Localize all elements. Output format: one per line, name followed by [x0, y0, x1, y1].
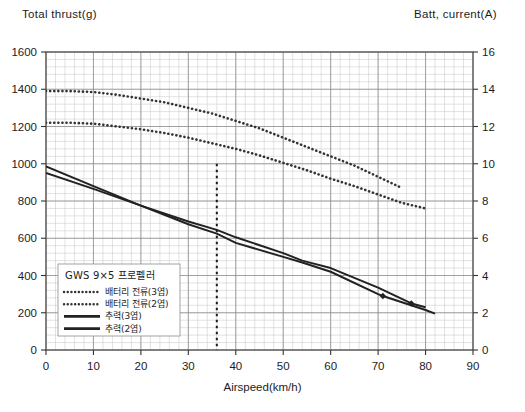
svg-text:90: 90 [467, 360, 480, 372]
svg-text:30: 30 [182, 360, 195, 372]
svg-text:6: 6 [482, 232, 488, 244]
chart-figure: Total thrust(g) Batt, current(A) Airspee… [0, 0, 525, 412]
svg-text:400: 400 [18, 270, 37, 282]
svg-text:800: 800 [18, 195, 37, 207]
svg-text:14: 14 [482, 83, 495, 95]
svg-text:40: 40 [229, 360, 242, 372]
svg-text:1000: 1000 [11, 158, 37, 170]
svg-text:배터리 전류(2엽): 배터리 전류(2엽) [105, 299, 169, 309]
svg-text:0: 0 [43, 360, 49, 372]
svg-text:80: 80 [419, 360, 432, 372]
svg-text:20: 20 [134, 360, 147, 372]
svg-text:200: 200 [18, 307, 37, 319]
svg-text:1400: 1400 [11, 83, 37, 95]
svg-text:70: 70 [372, 360, 385, 372]
svg-text:추력(3엽): 추력(3엽) [105, 310, 142, 321]
svg-text:10: 10 [87, 360, 100, 372]
svg-text:1600: 1600 [11, 46, 37, 58]
svg-text:4: 4 [482, 270, 489, 282]
svg-text:60: 60 [324, 360, 337, 372]
chart-canvas: 0200400600800100012001400160002468101214… [0, 0, 525, 412]
svg-text:600: 600 [18, 232, 37, 244]
svg-text:0: 0 [482, 344, 488, 356]
svg-text:1200: 1200 [11, 121, 37, 133]
svg-text:12: 12 [482, 121, 495, 133]
svg-text:2: 2 [482, 307, 488, 319]
svg-text:0: 0 [31, 344, 37, 356]
svg-text:추력(2엽): 추력(2엽) [105, 323, 142, 334]
chart-legend: GWS 9×5 프로펠러배터리 전류(3엽)배터리 전류(2엽)추력(3엽)추력… [58, 264, 180, 336]
svg-text:10: 10 [482, 158, 495, 170]
svg-text:50: 50 [277, 360, 290, 372]
svg-text:16: 16 [482, 46, 495, 58]
svg-text:GWS 9×5 프로펠러: GWS 9×5 프로펠러 [65, 270, 155, 281]
svg-text:8: 8 [482, 195, 488, 207]
svg-text:배터리 전류(3엽): 배터리 전류(3엽) [105, 287, 169, 297]
